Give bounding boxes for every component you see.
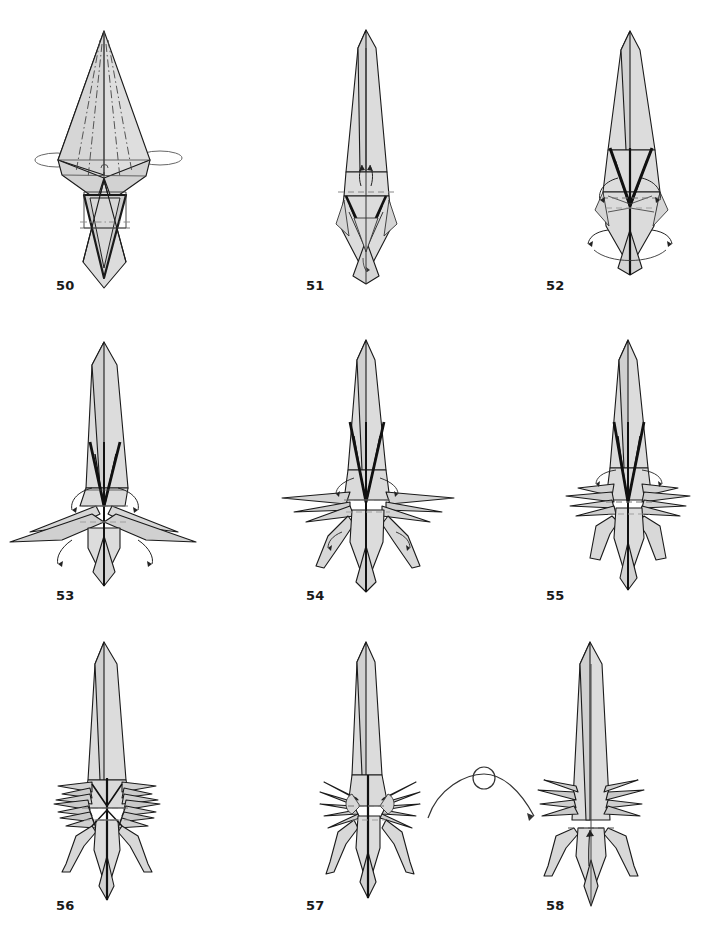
- figure-53: 53: [0, 310, 250, 620]
- figure-50: 50: [0, 0, 250, 310]
- diagram-page: 50: [0, 0, 724, 935]
- figure-51-art: [250, 0, 490, 310]
- curved-arrow-lower-right: [652, 230, 672, 244]
- turnover-arc-left: [428, 774, 484, 818]
- figure-54: 54: [250, 310, 490, 620]
- turn-over-symbol: [424, 758, 544, 828]
- turnover-arc-right: [484, 774, 534, 816]
- figure-56: 56: [0, 620, 250, 935]
- figure-55-art: [490, 310, 724, 620]
- figure-55: 55: [490, 310, 724, 620]
- figure-grid: 50: [0, 0, 724, 935]
- figure-label-58: 58: [546, 898, 565, 913]
- figure-label-56: 56: [56, 898, 75, 913]
- turnover-loop-circle: [473, 767, 495, 789]
- figure-53-art: [0, 310, 250, 620]
- figure-label-55: 55: [546, 588, 565, 603]
- figure-56-art: [0, 620, 250, 935]
- figure-51: 51: [250, 0, 490, 310]
- figure-52-art: [490, 0, 724, 310]
- figure-label-57: 57: [306, 898, 325, 913]
- figure-label-51: 51: [306, 278, 325, 293]
- figure-50-art: [0, 0, 250, 310]
- figure-label-54: 54: [306, 588, 325, 603]
- curved-arrow-lower-left: [588, 230, 608, 244]
- figure-label-50: 50: [56, 278, 75, 293]
- figure-label-53: 53: [56, 588, 75, 603]
- figure-52: 52: [490, 0, 724, 310]
- figure-54-art: [250, 310, 490, 620]
- figure-label-52: 52: [546, 278, 565, 293]
